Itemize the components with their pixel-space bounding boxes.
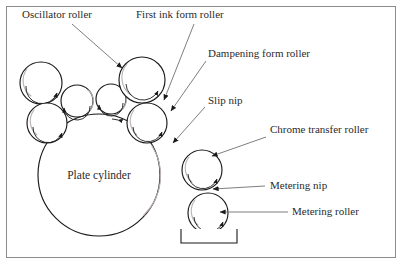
roller-oscillator-lower-left (27, 103, 67, 143)
roller-chrome-transfer (182, 150, 222, 190)
roller-train-diagram: Plate cylinder (0, 0, 402, 264)
label-chrome-transfer-roller: Chrome transfer roller (270, 123, 369, 135)
label-metering-roller: Metering roller (292, 205, 359, 217)
roller-dampening-form (127, 103, 167, 143)
roller-oscillator-upper-left (20, 62, 62, 104)
plate-cylinder-label: Plate cylinder (67, 169, 131, 182)
label-dampening-form-roller: Dampening form roller (208, 47, 310, 59)
diagram-canvas: Plate cylinder (0, 0, 402, 264)
ink-tray (181, 229, 237, 243)
label-oscillator-roller: Oscillator roller (22, 8, 92, 20)
label-slip-nip: Slip nip (208, 94, 243, 106)
label-metering-nip: Metering nip (270, 179, 328, 191)
roller-first-ink-form (119, 57, 165, 103)
label-first-ink-form-roller: First ink form roller (136, 8, 224, 20)
roller-metering (188, 193, 228, 233)
